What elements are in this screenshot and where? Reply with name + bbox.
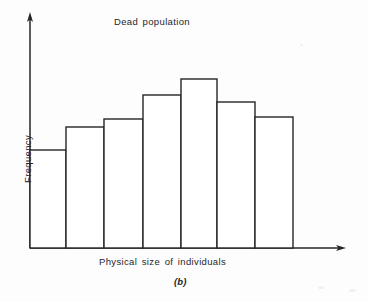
scan-speck (318, 286, 324, 289)
bar (255, 117, 293, 248)
bar (30, 150, 66, 248)
x-axis-label: Physical size of individuals (99, 256, 226, 267)
y-axis-label: Frequency (22, 135, 33, 183)
bar (104, 119, 143, 248)
bar (217, 102, 255, 248)
bar (181, 79, 217, 248)
scan-speck (300, 44, 303, 46)
scan-speck (349, 289, 356, 292)
bar (143, 95, 181, 248)
chart-title: Dead population (114, 16, 190, 27)
figure-panel: Dead population Frequency Physical size … (0, 0, 368, 302)
bar (66, 127, 104, 248)
figure-caption: (b) (174, 276, 187, 287)
histogram-bars (30, 79, 293, 248)
